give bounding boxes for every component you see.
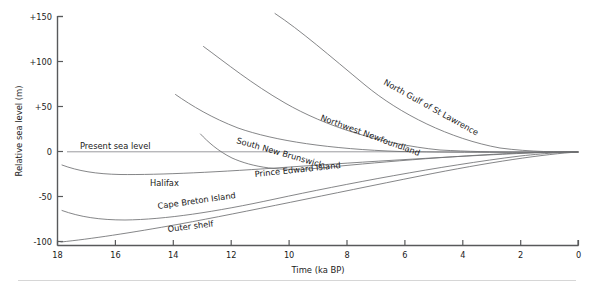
y-tick-label-150: +150 (30, 12, 53, 22)
x-tick-label-4: 4 (460, 250, 465, 260)
y-tick-label-minus100: -100 (33, 237, 52, 247)
x-tick-labels-group: 18 16 14 12 10 8 6 4 2 0 (52, 250, 581, 260)
axes-group (58, 16, 579, 246)
y-ticks-group (58, 17, 64, 242)
y-tick-label-100: +100 (30, 57, 53, 67)
x-ticks-group (58, 240, 579, 246)
curve-label-northwest-newfoundland: Northwest Newfoundland (319, 112, 421, 157)
x-tick-label-18: 18 (52, 250, 62, 260)
x-tick-label-8: 8 (344, 250, 349, 260)
x-tick-label-16: 16 (110, 250, 120, 260)
x-tick-label-10: 10 (284, 250, 294, 260)
y-tick-label-minus50: -50 (39, 192, 52, 202)
curve-label-cape-breton-island: Cape Breton Island (157, 190, 236, 211)
y-axis-title: Relative sea level (m) (14, 85, 24, 176)
y-tick-labels-group: +150 +100 +50 0 -50 -100 (30, 12, 53, 247)
x-tick-label-2: 2 (518, 250, 523, 260)
x-tick-label-0: 0 (576, 250, 581, 260)
y-tick-label-0: 0 (47, 147, 52, 157)
curves-group (61, 14, 578, 243)
curve-north-gulf-of-st-lawrence (275, 14, 578, 153)
x-tick-label-12: 12 (226, 250, 236, 260)
y-tick-label-50: +50 (35, 102, 52, 112)
curve-label-outer-shelf: Outer shelf (167, 218, 215, 234)
curve-label-prince-edward-island: Prince Edward Island (254, 160, 341, 179)
curve-label-halifax: Halifax (150, 178, 179, 188)
label-present-sea-level: Present sea level (80, 141, 151, 151)
x-axis-title: Time (ka BP) (291, 265, 345, 275)
x-tick-label-6: 6 (402, 250, 407, 260)
x-tick-label-14: 14 (168, 250, 178, 260)
chart-svg: +150 +100 +50 0 -50 -100 18 16 14 12 10 (0, 0, 594, 285)
sea-level-chart-figure: +150 +100 +50 0 -50 -100 18 16 14 12 10 (0, 0, 594, 285)
